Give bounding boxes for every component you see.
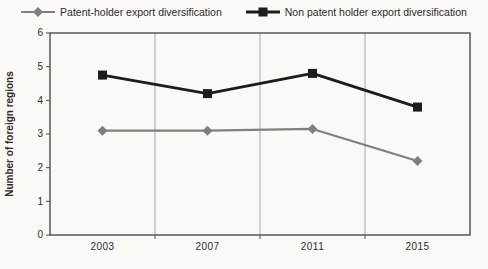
svg-text:4: 4 bbox=[37, 95, 43, 106]
svg-text:2007: 2007 bbox=[195, 241, 219, 252]
line-chart-plot: 01234562003200720112015Number of foreign… bbox=[0, 0, 488, 269]
svg-text:6: 6 bbox=[37, 27, 43, 38]
svg-text:2011: 2011 bbox=[301, 241, 325, 252]
x-axis: 2003200720112015 bbox=[90, 241, 429, 252]
svg-text:5: 5 bbox=[37, 61, 43, 72]
svg-text:3: 3 bbox=[37, 128, 43, 139]
y-axis-title: Number of foreign regions bbox=[4, 71, 15, 197]
svg-text:2003: 2003 bbox=[90, 241, 114, 252]
svg-text:1: 1 bbox=[37, 196, 43, 207]
svg-text:2: 2 bbox=[37, 162, 43, 173]
y-axis: 0123456 bbox=[37, 27, 50, 240]
svg-text:2015: 2015 bbox=[405, 241, 429, 252]
svg-text:0: 0 bbox=[37, 229, 43, 240]
chart-figure: Patent-holder export diversification Non… bbox=[0, 0, 488, 269]
